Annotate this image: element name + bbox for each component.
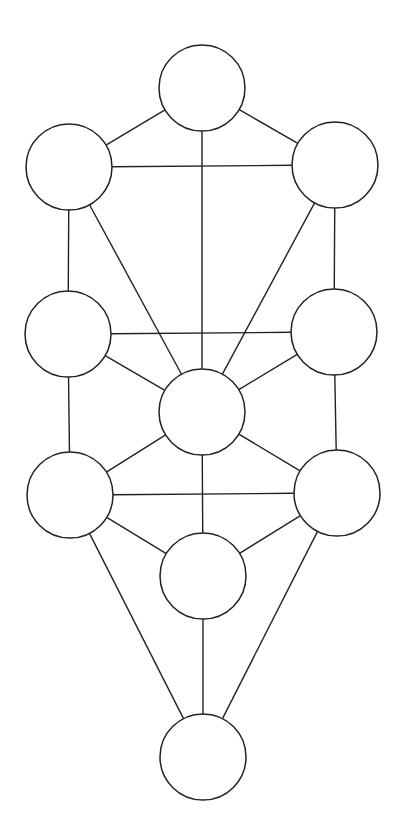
edge-n4-n7 <box>335 375 336 450</box>
edge-n4-n6 <box>239 354 297 389</box>
node-n1 <box>159 45 245 131</box>
edge-n5-n8 <box>69 377 70 452</box>
node-n8 <box>27 452 113 538</box>
node-n7 <box>294 450 380 536</box>
node-n5 <box>25 291 111 377</box>
edge-n4-n5 <box>111 332 291 333</box>
tree-diagram <box>0 0 408 839</box>
edge-n7-n8 <box>113 493 294 494</box>
node-n3 <box>26 124 112 210</box>
edge-n6-n8 <box>106 435 165 472</box>
node-n9 <box>160 533 246 619</box>
node-n2 <box>292 122 378 208</box>
node-n6 <box>159 369 245 455</box>
edge-n1-n3 <box>106 110 165 145</box>
edge-n7-n9 <box>240 516 301 554</box>
node-n4 <box>291 289 377 375</box>
node-n10 <box>160 714 246 800</box>
edge-n5-n6 <box>105 356 165 391</box>
edge-n1-n2 <box>239 110 298 144</box>
edge-n2-n3 <box>112 165 292 166</box>
edge-n6-n7 <box>239 434 300 471</box>
edge-n8-n9 <box>107 517 167 553</box>
